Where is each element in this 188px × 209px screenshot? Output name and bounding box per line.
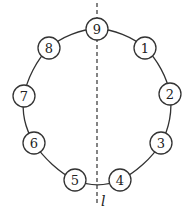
node-number: 3 <box>157 136 165 151</box>
node-number: 7 <box>20 89 28 104</box>
node-number: 6 <box>30 136 38 151</box>
node-3: 3 <box>150 132 172 154</box>
node-number: 5 <box>71 173 79 188</box>
node-1: 1 <box>134 37 156 59</box>
node-7: 7 <box>13 85 35 107</box>
node-2: 2 <box>159 83 181 105</box>
node-number: 8 <box>45 41 53 56</box>
node-4: 4 <box>109 169 131 191</box>
node-number: 2 <box>166 87 174 102</box>
node-5: 5 <box>64 169 86 191</box>
node-circle-diagram: 123456789 l <box>0 0 188 209</box>
node-number: 9 <box>93 22 101 37</box>
node-number: 1 <box>141 41 149 56</box>
line-label: l <box>101 193 105 209</box>
node-number: 4 <box>116 173 124 188</box>
node-6: 6 <box>23 132 45 154</box>
node-9: 9 <box>86 18 108 40</box>
node-8: 8 <box>38 37 60 59</box>
